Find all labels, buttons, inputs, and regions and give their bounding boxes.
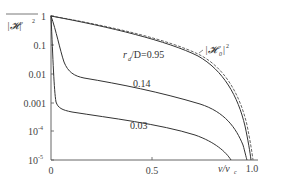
curve-h0-ideal xyxy=(51,16,253,160)
svg-text:/D=0.95: /D=0.95 xyxy=(131,49,164,60)
svg-text:0: 0 xyxy=(49,165,54,176)
svg-text:0.001: 0.001 xyxy=(24,98,47,109)
svg-text:1.0: 1.0 xyxy=(246,163,259,174)
svg-text:0.01: 0.01 xyxy=(29,69,47,80)
transfer-function-chart: |𝓗| 2 1 0.1 0.01 0.001 10 -4 10 -5 0 0.5… xyxy=(0,0,283,182)
annotation-rd-003: 0.03 xyxy=(130,120,148,131)
y-tick-labels: 1 0.1 0.01 0.001 10 -4 10 -5 xyxy=(24,11,47,166)
svg-text:-5: -5 xyxy=(38,154,43,160)
svg-text:2: 2 xyxy=(32,18,35,24)
svg-text:|𝓗|: |𝓗| xyxy=(7,20,23,31)
svg-text:10: 10 xyxy=(28,155,38,166)
y-axis-label: |𝓗| 2 xyxy=(6,14,38,31)
svg-text:c: c xyxy=(234,169,237,175)
svg-text:2: 2 xyxy=(226,43,229,49)
svg-text:-4: -4 xyxy=(38,125,43,131)
svg-text:10: 10 xyxy=(28,126,38,137)
svg-text:0: 0 xyxy=(219,51,222,57)
svg-text:0.5: 0.5 xyxy=(146,165,159,176)
annotation-rd-014: 0.14 xyxy=(133,78,151,89)
annotation-h0: |𝓗 0 | 2 xyxy=(199,43,229,57)
annotation-rd-095: r d /D=0.95 xyxy=(123,49,164,62)
curve-rd-095 xyxy=(51,16,251,160)
svg-text:0.1: 0.1 xyxy=(34,40,47,51)
x-axis-label: ν/ν c xyxy=(218,163,237,175)
svg-text:ν/ν: ν/ν xyxy=(218,163,230,174)
svg-text:|: | xyxy=(223,44,225,55)
svg-text:r: r xyxy=(123,49,127,60)
svg-text:1: 1 xyxy=(41,11,46,22)
